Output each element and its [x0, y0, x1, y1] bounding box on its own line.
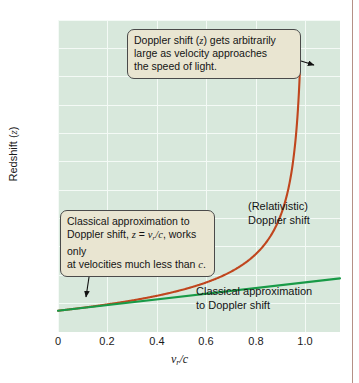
y-axis-label-var: z	[7, 130, 19, 134]
callout-top-line3: the speed of light.	[134, 60, 217, 72]
callout-relativistic-note: Doppler shift (z) gets arbitrarily large…	[127, 29, 301, 79]
callout-classical-note: Classical approximation to Doppler shift…	[60, 210, 215, 277]
x-tick-1.0: 1.0	[285, 336, 325, 347]
series-label-relativistic-line1: (Relativistic)	[248, 200, 308, 212]
page-edge-rule	[352, 0, 353, 383]
y-axis-label: Redshift (z)	[7, 84, 19, 224]
y-axis-label-suffix: )	[7, 126, 19, 130]
x-tick-0.8: 0.8	[236, 336, 276, 347]
series-label-relativistic: (Relativistic) Doppler shift	[248, 200, 310, 227]
callout-top-line2: large as velocity approaches	[134, 47, 267, 59]
series-label-classical-line2: to Doppler shift	[196, 299, 270, 311]
series-label-relativistic-line2: Doppler shift	[248, 214, 310, 226]
x-axis-label: vr/c	[0, 352, 359, 367]
callout-top-line1-post: ) gets arbitrarily	[203, 34, 275, 46]
callout-left-line1: Classical approximation to	[67, 215, 190, 227]
callout-left-line2-pre: Doppler shift,	[67, 228, 132, 240]
y-axis-label-prefix: Redshift (	[7, 134, 19, 181]
x-axis-label-rest: /c	[179, 352, 188, 366]
x-tick-0: 0	[38, 336, 78, 347]
callout-left-eq-mid: =	[136, 228, 148, 240]
callout-left-eq-tail: /c	[155, 229, 163, 240]
callout-top-line1-pre: Doppler shift (	[134, 34, 199, 46]
x-tick-0.2: 0.2	[87, 336, 127, 347]
series-label-classical-line1: Classical approximation	[196, 285, 312, 297]
doppler-redshift-figure: 10 9 8 7 6 5 4 3 2 1 0 Redshift (z) 0	[0, 0, 359, 383]
callout-left-line3-post: .	[203, 258, 206, 270]
callout-left-line3-pre: at velocities much less than	[67, 258, 198, 270]
x-tick-0.4: 0.4	[137, 336, 177, 347]
x-tick-0.6: 0.6	[186, 336, 226, 347]
series-label-classical: Classical approximation to Doppler shift	[196, 285, 312, 312]
